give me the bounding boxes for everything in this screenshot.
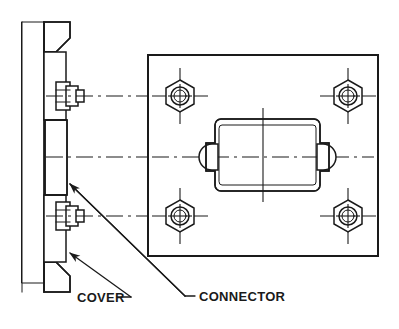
- cover-label: COVER: [77, 290, 125, 305]
- connector-label: CONNECTOR: [199, 289, 286, 304]
- wall-lip-lower: [44, 262, 70, 292]
- wall-lip-upper: [44, 22, 70, 52]
- assembly-drawing-svg: COVER CONNECTOR: [0, 0, 399, 329]
- wall-edge-lines: [22, 22, 44, 292]
- right-front-view: [148, 55, 378, 256]
- bulkhead-wall-upper: [22, 22, 44, 283]
- technical-drawing-root: COVER CONNECTOR: [0, 0, 399, 329]
